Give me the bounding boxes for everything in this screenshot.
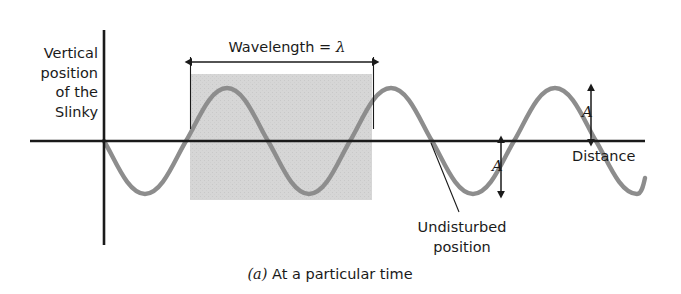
undisturbed-position-label: Undisturbed position <box>396 217 528 257</box>
x-axis-label: Distance <box>572 148 635 164</box>
figure-caption-prefix: (a) <box>247 266 267 282</box>
y-axis-label: Vertical position of the Slinky <box>8 44 98 122</box>
undisturbed-position-line-1: Undisturbed <box>396 217 528 237</box>
y-axis-label-line-1: Vertical <box>8 44 98 64</box>
lambda-symbol: λ <box>336 38 346 56</box>
wavelength-label: Wavelength = λ <box>196 38 378 56</box>
y-axis-label-line-4: Slinky <box>8 103 98 123</box>
amplitude-label-lower: A <box>492 157 503 175</box>
wavelength-label-prefix: Wavelength = <box>228 39 335 55</box>
undisturbed-leader-line <box>431 143 459 212</box>
y-axis-label-line-3: of the <box>8 83 98 103</box>
undisturbed-position-line-2: position <box>396 237 528 257</box>
y-axis-label-line-2: position <box>8 64 98 84</box>
amplitude-label-upper: A <box>582 103 593 121</box>
figure-caption: (a) At a particular time <box>190 266 470 282</box>
wave-diagram-figure: Vertical position of the Slinky Distance… <box>0 0 681 294</box>
figure-caption-text: At a particular time <box>267 266 412 282</box>
